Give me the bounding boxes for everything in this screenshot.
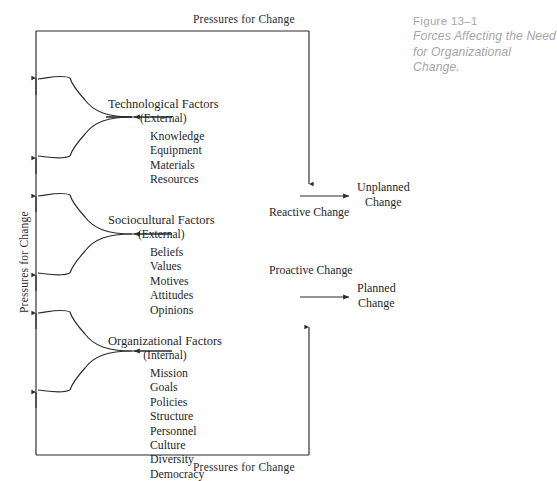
outcome-unplanned-line1: Unplanned bbox=[357, 180, 410, 195]
factor-scope-organizational: (Internal) bbox=[108, 349, 222, 361]
change-type-proactive: Proactive Change bbox=[269, 264, 353, 278]
list-item: Motives bbox=[150, 274, 215, 288]
socio-curve-to-frame-upper bbox=[38, 193, 70, 196]
org-curve-to-frame-lower bbox=[38, 390, 70, 392]
list-item: Mission bbox=[150, 366, 222, 380]
list-item: Personnel bbox=[150, 424, 222, 438]
list-item: Diversity bbox=[150, 452, 222, 466]
list-item: Structure bbox=[150, 409, 222, 423]
outcome-unplanned-change: Unplanned Change bbox=[357, 180, 410, 209]
factor-block-technological: Technological Factors (External) Knowled… bbox=[108, 97, 219, 187]
factor-title-organizational: Organizational Factors bbox=[108, 334, 222, 349]
outcome-planned-line2: Change bbox=[357, 296, 396, 311]
factor-block-sociocultural: Sociocultural Factors (External) Beliefs… bbox=[108, 213, 215, 317]
list-item: Knowledge bbox=[150, 129, 219, 143]
list-item: Beliefs bbox=[150, 245, 215, 259]
factor-title-sociocultural: Sociocultural Factors bbox=[108, 213, 215, 228]
figure-caption-number: Figure 13–1 bbox=[413, 14, 557, 29]
list-item: Policies bbox=[150, 395, 222, 409]
figure-caption: Figure 13–1 Forces Affecting the Need fo… bbox=[413, 14, 557, 76]
list-item: Materials bbox=[150, 158, 219, 172]
factor-scope-sociocultural: (External) bbox=[108, 228, 215, 240]
org-curve-to-frame-upper bbox=[38, 310, 70, 313]
list-item: Values bbox=[150, 259, 215, 273]
factor-title-technological: Technological Factors bbox=[108, 97, 219, 112]
outcome-unplanned-line2: Change bbox=[357, 195, 410, 210]
list-item: Goals bbox=[150, 380, 222, 394]
pressure-label-top: Pressures for Change bbox=[193, 13, 295, 27]
change-type-reactive: Reactive Change bbox=[269, 206, 349, 220]
factor-block-organizational: Organizational Factors (Internal) Missio… bbox=[108, 334, 222, 481]
list-item: Democracy bbox=[150, 467, 222, 481]
tech-brace-tails bbox=[38, 76, 70, 158]
pressure-label-left-text: Pressures for Change bbox=[18, 211, 32, 313]
factor-items-sociocultural: Beliefs Values Motives Attitudes Opinion… bbox=[150, 245, 215, 317]
list-item: Culture bbox=[150, 438, 222, 452]
socio-curve-to-frame-lower bbox=[38, 273, 70, 275]
outcome-planned-change: Planned Change bbox=[357, 281, 396, 310]
figure-container: Pressures for Change Pressures for Chang… bbox=[0, 0, 557, 481]
list-item: Equipment bbox=[150, 143, 219, 157]
factor-items-technological: Knowledge Equipment Materials Resources bbox=[150, 129, 219, 187]
outcome-planned-line1: Planned bbox=[357, 281, 396, 296]
list-item: Resources bbox=[150, 172, 219, 186]
factor-items-organizational: Mission Goals Policies Structure Personn… bbox=[150, 366, 222, 481]
figure-caption-title: Forces Affecting the Need for Organizati… bbox=[413, 29, 557, 76]
list-item: Opinions bbox=[150, 303, 215, 317]
list-item: Attitudes bbox=[150, 288, 215, 302]
factor-scope-technological: (External) bbox=[108, 112, 219, 124]
